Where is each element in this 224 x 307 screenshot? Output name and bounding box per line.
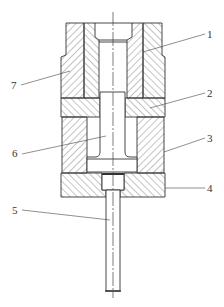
- part-1-left: [84, 23, 99, 98]
- callout-4: 4: [207, 182, 213, 194]
- part-3-left: [62, 117, 87, 173]
- part-1-right: [127, 23, 143, 98]
- callout-1: 1: [207, 28, 213, 40]
- leader-5: [22, 210, 110, 220]
- callout-5: 5: [12, 204, 18, 216]
- leader-3: [164, 138, 205, 152]
- callout-2: 2: [207, 87, 213, 99]
- part-4-right: [120, 173, 165, 197]
- part-4-left: [61, 173, 106, 197]
- part-3-right: [137, 117, 164, 173]
- section-drawing: 1 2 3 4 5 6 7: [0, 0, 224, 307]
- callout-6: 6: [12, 147, 18, 159]
- callout-7: 7: [11, 79, 17, 91]
- part-2-left: [61, 98, 100, 117]
- callout-3: 3: [207, 132, 213, 144]
- part-2-right: [125, 98, 165, 117]
- part-7-left: [61, 23, 84, 98]
- part-7-right: [143, 23, 165, 98]
